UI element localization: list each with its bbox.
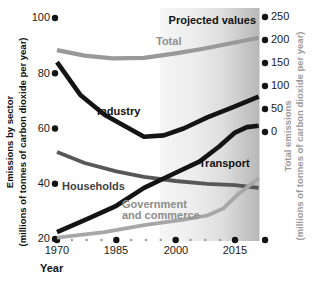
x-tick-1970: 1970 [37, 244, 77, 257]
series-label-government: Government and commerce [122, 199, 200, 221]
series-label-industry: Industry [97, 105, 140, 117]
series-label-households: Households [62, 180, 125, 192]
x-tick-2015: 2015 [215, 244, 255, 257]
x-tick-1985: 1985 [96, 244, 136, 257]
left-axis-title-line2: (millions of tonnes of carbon dioxide pe… [16, 12, 29, 272]
series-label-government-line2: and commerce [122, 210, 200, 221]
left-axis-title: Emissions by sector (millions of tonnes … [3, 12, 29, 272]
series-label-transport: Transport [199, 157, 250, 169]
right-axis-title: Total emissions (millions of tonnes of c… [282, 11, 306, 261]
series-label-total: Total [156, 35, 181, 47]
projected-values-label: Projected values [146, 14, 256, 26]
x-tick-2000: 2000 [156, 244, 196, 257]
left-axis-title-line1: Emissions by sector [3, 12, 16, 272]
emissions-line-chart: 100 80 60 40 20 250 200 150 100 50 0 197… [0, 0, 320, 282]
right-tick-0: 0 [271, 125, 277, 138]
right-axis-title-line1: Total emissions [282, 11, 294, 261]
right-axis-title-line2: (millions of tonnes of carbon dioxide pe… [294, 11, 306, 261]
x-axis-title: Year [40, 262, 63, 274]
